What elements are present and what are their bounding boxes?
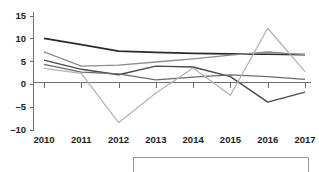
x-tick-label: 2015 [220,134,242,145]
series-line-series-5 [44,28,305,122]
x-tick-group [45,83,306,88]
x-tick-label: 2013 [145,134,166,145]
x-tick-label: 2016 [257,134,278,145]
y-axis-group [30,12,34,131]
y-tick-label: 15 [15,10,26,21]
y-tick-label: –5 [15,101,26,112]
line-chart: 20102011201220132014201520162017 –10–505… [0,0,319,172]
x-tick-label: 2017 [294,134,315,145]
x-axis-group [34,83,312,88]
y-tick-label: 10 [15,33,26,44]
chart-plot-area: 20102011201220132014201520162017 –10–505… [0,0,319,172]
y-tick-label: 0 [21,78,26,89]
legend-box [133,157,309,172]
data-series-group [44,28,305,122]
x-tick-label-group: 20102011201220132014201520162017 [33,134,315,145]
x-tick-label: 2014 [183,134,205,145]
x-tick-label: 2010 [33,134,54,145]
x-tick-label: 2011 [71,134,92,145]
y-tick-group [30,17,34,131]
x-tick-label: 2012 [108,134,129,145]
y-tick-label-group: –10–5051015 [10,10,27,135]
y-tick-label: –10 [10,124,26,135]
y-tick-label: 5 [21,56,27,67]
